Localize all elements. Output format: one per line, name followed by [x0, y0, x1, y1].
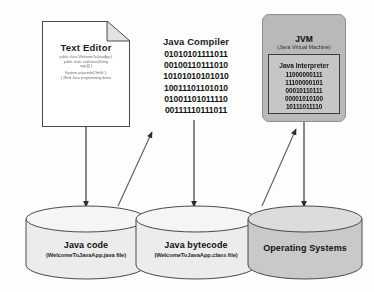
binary-row: 00001010100 [268, 95, 340, 103]
code-line: args[]) { [46, 64, 126, 69]
java-interpreter-binary: 11000000111 11100000101 00010110111 0000… [268, 71, 340, 111]
code-line: } //End Java programming demo [46, 76, 126, 81]
java-code-store [24, 205, 148, 285]
java-compiler-block: Java Compiler 01010101111011 00100110111… [140, 36, 252, 116]
jvm-title: JVM [262, 34, 346, 44]
binary-row: 10111011110 [268, 103, 340, 111]
flow-javacode-to-compiler [118, 132, 152, 206]
binary-row: 00010110111 [268, 87, 340, 95]
java-bytecode-store [134, 205, 258, 285]
binary-row: 10101010101010 [140, 71, 252, 82]
java-interpreter-title: Java Interpreter [268, 62, 340, 69]
binary-row: 11000000111 [268, 71, 340, 79]
jvm-subtitle: (Java Virtual Machine) [262, 44, 346, 50]
binary-row: 01010101111011 [140, 49, 252, 60]
binary-row: 11100000101 [268, 79, 340, 87]
java-compiler-title: Java Compiler [140, 36, 252, 47]
java-execution-flow-diagram: Text Editor public class WelcomeToJavaAp… [0, 0, 374, 292]
binary-row: 00100110111010 [140, 60, 252, 71]
flow-bytecode-to-jvm [262, 129, 296, 206]
text-editor-title: Text Editor [42, 42, 130, 53]
java-compiler-binary: 01010101111011 00100110111010 1010101010… [140, 49, 252, 116]
text-editor-code: public class WelcomeToJavaApp { public s… [46, 55, 126, 83]
binary-row: 00111110111011 [140, 105, 252, 116]
operating-systems-store [246, 205, 364, 285]
binary-row: 10011101101010 [140, 83, 252, 94]
binary-row: 01001101011110 [140, 94, 252, 105]
